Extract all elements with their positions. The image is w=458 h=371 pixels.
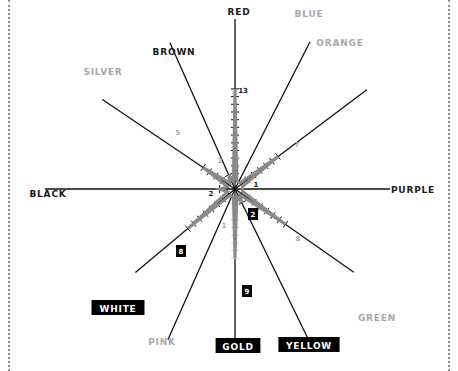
category-label-green: GREEN [358, 313, 396, 323]
category-label-black: BLACK [29, 189, 66, 199]
category-label-orange: ORANGE [316, 38, 363, 48]
category-label-brown: BROWN [153, 47, 196, 57]
spoke-blue [235, 42, 310, 189]
category-label-silver: SILVER [83, 67, 122, 77]
value-label-black: 2 [209, 190, 214, 198]
spoke-pink [168, 189, 235, 340]
star-outline [188, 89, 286, 258]
category-label-purple: PURPLE [391, 185, 435, 195]
category-label-pink: PINK [148, 337, 176, 347]
radar-chart: REDBLUEORANGEPURPLEGREENYELLOWGOLDPINKWH… [0, 0, 458, 371]
value-label-pink: 1 [222, 222, 227, 230]
category-label-blue: BLUE [295, 9, 324, 19]
value-label-white: 8 [179, 248, 184, 256]
value-label-gold: 9 [245, 288, 250, 296]
category-label-yellow: YELLOW [285, 341, 332, 351]
star-outline-layer [188, 89, 286, 258]
value-label-yellow: 2 [251, 211, 256, 219]
category-label-white: WHITE [99, 304, 136, 314]
value-label-red: 13 [238, 87, 248, 95]
category-label-red: RED [228, 7, 251, 17]
value-label-green: 8 [296, 235, 301, 243]
value-label-silver: 5 [176, 129, 181, 137]
spoke-yellow [235, 189, 307, 337]
value-label-brown: 2 [218, 157, 223, 165]
value-label-purple: 1 [254, 181, 259, 189]
value-label-orange: 7 [295, 141, 300, 149]
category-label-gold: GOLD [222, 342, 253, 352]
